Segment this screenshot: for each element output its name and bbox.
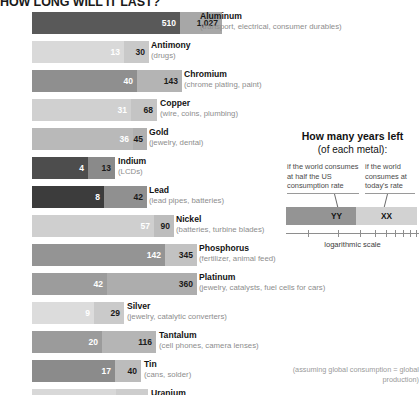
- bar-segment-half-rate: 8: [32, 186, 104, 208]
- page-title: HOW LONG WILL IT LAST?: [0, 0, 160, 9]
- axis-tick: [360, 230, 361, 237]
- metal-uses: (jewelry, catalysts, fuel cells for cars…: [199, 283, 325, 293]
- metal-uses: (transport, electrical, consumer durable…: [200, 22, 342, 32]
- bar: 5101,027: [32, 12, 222, 34]
- legend-rule-right: [365, 193, 415, 194]
- bar-value-half-rate: 57: [141, 222, 154, 231]
- legend-segment-today-rate-label: XX: [381, 211, 392, 221]
- bar: 20116: [32, 331, 156, 353]
- legend-notes: if the world consumes at half the US con…: [286, 162, 419, 194]
- metal-uses: (cell phones, camera lenses): [159, 341, 259, 351]
- bar-row: 20116Tantalum(cell phones, camera lenses…: [0, 331, 419, 353]
- bar-label: Gold(jewelry, dental): [149, 127, 203, 147]
- bar-segment-half-rate: 142: [32, 244, 165, 266]
- bar: 3645: [32, 128, 147, 150]
- metal-uses: (fertilizer, animal feed): [199, 254, 276, 264]
- bar-value-half-rate: 40: [124, 77, 137, 86]
- bar-segment-half-rate: 36: [32, 128, 133, 150]
- footnote: (assuming global consumption = global pr…: [286, 365, 419, 385]
- bar: 5790: [32, 215, 174, 237]
- bar-value-half-rate: 36: [120, 135, 133, 144]
- metal-name: Tantalum: [159, 330, 259, 341]
- metal-name: Phosphorus: [199, 243, 276, 254]
- bar-value-half-rate: 20: [89, 338, 102, 347]
- legend-segment-today-rate: XX: [356, 207, 417, 225]
- axis-tick: [338, 230, 339, 237]
- bar-segment-today-rate: 116: [102, 331, 156, 353]
- bar-row: 3168Copper(wire, coins, plumbing): [0, 99, 419, 121]
- legend-note-today-rate: if the world consumes at today's rate: [365, 162, 415, 194]
- bar-row: 5101,027Aluminum(transport, electrical, …: [0, 12, 419, 34]
- bar-segment-half-rate: 4: [32, 157, 88, 179]
- bar-value-today-rate: 345: [179, 251, 197, 260]
- metal-name: Lead: [149, 185, 224, 196]
- bar-label: Silver(jewelry, catalytic converters): [127, 301, 227, 321]
- bar: 1959: [32, 389, 148, 395]
- bar: 842: [32, 186, 147, 208]
- bar-value-today-rate: 68: [144, 106, 157, 115]
- bar-row: 929Silver(jewelry, catalytic converters): [0, 302, 419, 324]
- metal-name: Uranium: [151, 388, 270, 395]
- metal-name: Silver: [127, 301, 227, 312]
- bar-label: Nickel(batteries, turbine blades): [176, 214, 264, 234]
- bar-segment-today-rate: 360: [107, 273, 197, 295]
- axis-tick: [375, 230, 376, 237]
- axis-tick: [395, 230, 396, 237]
- bar: 929: [32, 302, 124, 324]
- metal-uses: (jewelry, catalytic converters): [127, 312, 227, 322]
- bar-segment-today-rate: 345: [165, 244, 197, 266]
- bar-label: Platinum(jewelry, catalysts, fuel cells …: [199, 272, 325, 292]
- metal-name: Gold: [149, 127, 203, 138]
- bar-value-today-rate: 45: [134, 135, 147, 144]
- legend-note-today-rate-text: if the world consumes at today's rate: [365, 162, 407, 191]
- bar: 3168: [32, 99, 157, 121]
- bar-segment-half-rate: 20: [32, 331, 102, 353]
- bar-row: 40143Chromium(chrome plating, paint): [0, 70, 419, 92]
- bar-label: Aluminum(transport, electrical, consumer…: [200, 11, 342, 31]
- metal-uses: (wire, coins, plumbing): [160, 109, 238, 119]
- metal-name: Aluminum: [200, 11, 342, 22]
- legend-note-half-rate-text: if the world consumes at half the US con…: [287, 162, 358, 191]
- legend-title: How many years left: [286, 130, 419, 143]
- bar-segment-today-rate: 29: [94, 302, 124, 324]
- metal-uses: (LCDs): [118, 167, 146, 177]
- legend-log-axis: [286, 229, 419, 238]
- bar-value-half-rate: 4: [79, 164, 88, 173]
- bar: 40143: [32, 70, 182, 92]
- bar: 1740: [32, 360, 141, 382]
- bar-value-half-rate: 510: [162, 19, 180, 28]
- bar-label: Lead(lead pipes, batteries): [149, 185, 224, 205]
- bar-label: Tin(cans, solder): [144, 359, 191, 379]
- bar-label: Tantalum(cell phones, camera lenses): [159, 330, 259, 350]
- bar-row: 1959Uranium(weapons, nuclear power stati…: [0, 389, 419, 395]
- bar-segment-today-rate: 40: [115, 360, 141, 382]
- bar-value-today-rate: 143: [164, 77, 182, 86]
- bar-value-half-rate: 8: [95, 193, 104, 202]
- bar-value-today-rate: 90: [161, 222, 174, 231]
- bar-segment-today-rate: 13: [88, 157, 115, 179]
- metal-name: Platinum: [199, 272, 325, 283]
- bar-segment-half-rate: 40: [32, 70, 137, 92]
- metal-name: Tin: [144, 359, 191, 370]
- axis-tick: [403, 230, 404, 237]
- metal-name: Chromium: [184, 69, 262, 80]
- legend-note-half-rate: if the world consumes at half the US con…: [287, 162, 359, 194]
- legend-segment-half-rate-label: YY: [331, 211, 356, 221]
- legend-subtitle: (of each metal):: [286, 143, 419, 156]
- bar-value-half-rate: 9: [85, 309, 94, 318]
- bar-segment-half-rate: 510: [32, 12, 180, 34]
- bar-label: Uranium(weapons, nuclear power stations): [151, 388, 270, 395]
- legend-segment-half-rate: YY: [286, 207, 356, 225]
- bar-segment-half-rate: 9: [32, 302, 94, 324]
- axis-tick: [410, 230, 411, 237]
- metal-uses: (cans, solder): [144, 370, 191, 380]
- bar-segment-half-rate: 13: [32, 41, 124, 63]
- legend-sample-bar: YY XX: [286, 207, 419, 225]
- bar-value-today-rate: 116: [138, 338, 156, 347]
- bar-label: Chromium(chrome plating, paint): [184, 69, 262, 89]
- axis-line: [286, 233, 419, 234]
- bar: 1330: [32, 41, 149, 63]
- metal-name: Indium: [118, 156, 146, 167]
- bar: 142345: [32, 244, 197, 266]
- metal-name: Antimony: [151, 40, 191, 51]
